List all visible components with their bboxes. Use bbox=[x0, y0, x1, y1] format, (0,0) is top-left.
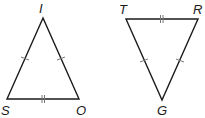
vertex-label-g: G bbox=[157, 103, 167, 118]
vertex-label-s: S bbox=[1, 103, 10, 118]
vertex-label-r: R bbox=[193, 2, 202, 17]
triangle-iso: I S O bbox=[1, 1, 86, 118]
triangle-trg-outline bbox=[126, 19, 198, 100]
vertex-label-t: T bbox=[119, 2, 128, 17]
vertex-label-o: O bbox=[76, 103, 86, 118]
vertex-label-i: I bbox=[39, 1, 43, 16]
triangle-trg: T R G bbox=[119, 2, 202, 118]
triangle-iso-outline bbox=[7, 18, 79, 99]
congruent-triangles-diagram: I S O T R G bbox=[0, 0, 205, 118]
diagram-svg: I S O T R G bbox=[0, 0, 205, 118]
